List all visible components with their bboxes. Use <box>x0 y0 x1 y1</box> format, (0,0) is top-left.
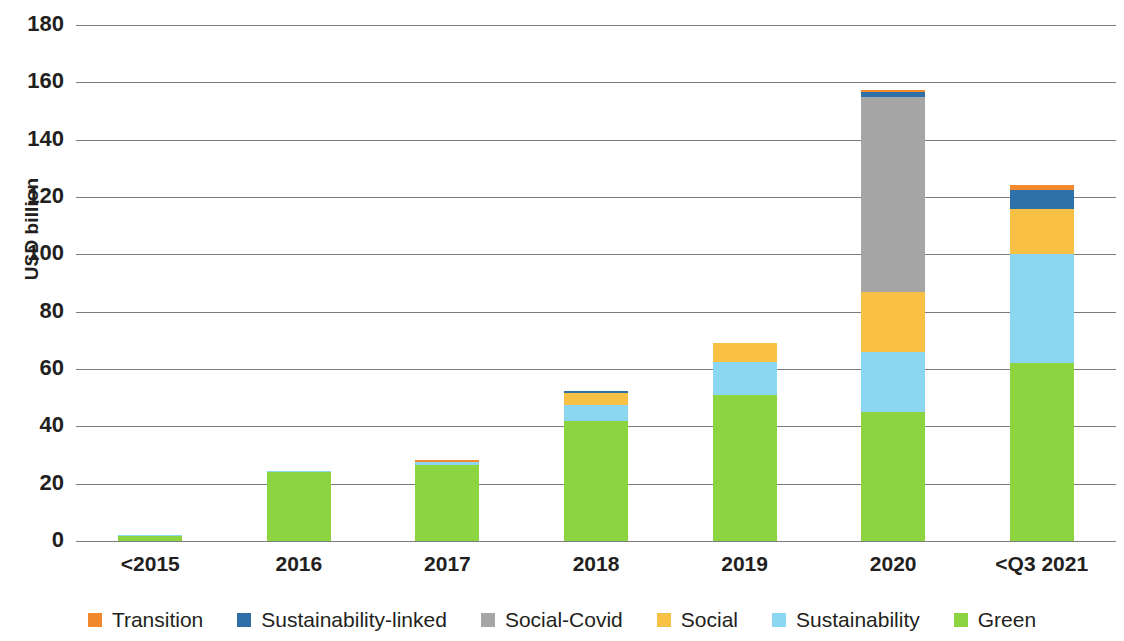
bar-segment[interactable] <box>118 536 182 541</box>
x-axis-labels: <201520162017201820192020<Q3 2021 <box>76 552 1116 582</box>
legend-swatch-icon <box>954 613 968 627</box>
plot-area: 180160140120100806040200 <box>76 25 1116 541</box>
legend-label: Sustainability <box>796 608 920 632</box>
legend-label: Social-Covid <box>505 608 623 632</box>
bar-group[interactable] <box>1010 185 1074 541</box>
legend-item[interactable]: Sustainability <box>772 608 920 632</box>
bar-group[interactable] <box>118 535 182 541</box>
y-axis-tick-label: 20 <box>0 470 64 496</box>
bar-segment[interactable] <box>861 412 925 541</box>
bar-segment[interactable] <box>713 343 777 362</box>
legend-swatch-icon <box>772 613 786 627</box>
legend-label: Green <box>978 608 1036 632</box>
bar-group[interactable] <box>564 391 628 541</box>
bar-segment[interactable] <box>713 395 777 541</box>
bar-segment[interactable] <box>861 352 925 412</box>
legend-swatch-icon <box>481 613 495 627</box>
x-axis-tick-label: <2015 <box>121 552 180 576</box>
y-axis-tick-label: 40 <box>0 412 64 438</box>
y-axis-tick-label: 80 <box>0 298 64 324</box>
bar-series-container <box>76 25 1116 541</box>
x-axis-tick-label: 2016 <box>275 552 322 576</box>
legend-label: Social <box>681 608 738 632</box>
legend-item[interactable]: Social-Covid <box>481 608 623 632</box>
y-axis-tick-label: 160 <box>0 68 64 94</box>
legend-label: Sustainability-linked <box>261 608 447 632</box>
bar-segment[interactable] <box>861 97 925 292</box>
legend-swatch-icon <box>237 613 251 627</box>
y-axis-tick-label: 60 <box>0 355 64 381</box>
y-axis-tick-label: 140 <box>0 126 64 152</box>
bar-segment[interactable] <box>564 405 628 421</box>
bar-segment[interactable] <box>1010 209 1074 255</box>
x-axis-tick-label: 2017 <box>424 552 471 576</box>
legend-item[interactable]: Transition <box>88 608 203 632</box>
bar-segment[interactable] <box>415 465 479 541</box>
y-axis-tick-label: 120 <box>0 183 64 209</box>
legend-item[interactable]: Sustainability-linked <box>237 608 447 632</box>
legend-item[interactable]: Social <box>657 608 738 632</box>
bar-segment[interactable] <box>267 472 331 541</box>
y-axis-tick-label: 100 <box>0 240 64 266</box>
legend-swatch-icon <box>88 613 102 627</box>
bar-segment[interactable] <box>564 393 628 405</box>
legend-label: Transition <box>112 608 203 632</box>
x-axis-tick-label: 2018 <box>573 552 620 576</box>
x-axis-tick-label: 2020 <box>870 552 917 576</box>
gridline <box>76 541 1116 542</box>
x-axis-tick-label: <Q3 2021 <box>995 552 1088 576</box>
bar-segment[interactable] <box>713 362 777 395</box>
legend-swatch-icon <box>657 613 671 627</box>
bar-group[interactable] <box>415 460 479 541</box>
stacked-bar-chart: USD billion 180160140120100806040200 <20… <box>0 0 1124 641</box>
bar-segment[interactable] <box>1010 363 1074 541</box>
bar-group[interactable] <box>861 90 925 541</box>
bar-group[interactable] <box>267 471 331 541</box>
bar-group[interactable] <box>713 343 777 541</box>
bar-segment[interactable] <box>861 292 925 352</box>
legend-item[interactable]: Green <box>954 608 1036 632</box>
y-axis-tick-label: 0 <box>0 527 64 553</box>
chart-legend: TransitionSustainability-linkedSocial-Co… <box>0 608 1124 632</box>
bar-segment[interactable] <box>1010 190 1074 209</box>
bar-segment[interactable] <box>1010 254 1074 363</box>
y-axis-tick-label: 180 <box>0 11 64 37</box>
x-axis-tick-label: 2019 <box>721 552 768 576</box>
bar-segment[interactable] <box>564 421 628 541</box>
